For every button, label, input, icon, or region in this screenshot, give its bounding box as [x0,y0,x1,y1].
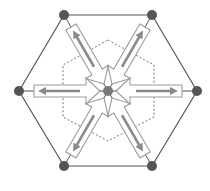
vertex-node-top-left [59,10,69,20]
hexagon-flow-diagram [0,0,210,191]
center-node [103,86,113,96]
vertex-node-bottom-left [59,161,69,171]
vertex-node-left [14,86,24,96]
arrow-right [116,78,182,104]
vertex-node-top-right [147,10,157,20]
arrow-left [34,78,100,104]
vertex-node-bottom-right [147,161,157,171]
vertex-node-right [192,86,202,96]
